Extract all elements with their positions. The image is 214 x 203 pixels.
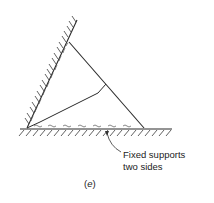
callout-label: Fixed supports two sides <box>123 149 185 173</box>
free-edge <box>69 42 144 128</box>
floor-support <box>19 125 172 136</box>
yield-line-diagram: Fixed supports two sides (e) <box>0 0 214 203</box>
figure-caption: (e) <box>84 178 96 189</box>
callout-leader-line <box>107 133 121 152</box>
callout-line-2: two sides <box>123 161 185 173</box>
callout-line-1: Fixed supports <box>123 149 185 161</box>
caption-close-paren: ) <box>92 178 95 189</box>
triangular-plate <box>27 42 144 128</box>
inclined-wall-support <box>25 16 77 128</box>
yield-line <box>27 84 106 128</box>
